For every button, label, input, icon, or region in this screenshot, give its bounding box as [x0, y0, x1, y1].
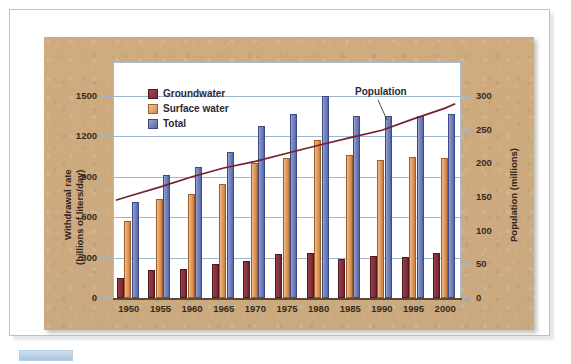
bar-total-1965 — [227, 152, 234, 298]
y2-tick-label-300: 300 — [476, 90, 506, 101]
x-axis-baseline — [113, 298, 462, 300]
y2-tick-150 — [461, 197, 472, 198]
legend-swatch-groundwater-icon — [148, 89, 158, 99]
legend-swatch-total-icon — [148, 119, 158, 129]
legend-label-total: Total — [163, 118, 186, 129]
bar-total-1950 — [132, 202, 139, 298]
bar-surface-water-1990 — [377, 160, 384, 298]
gridline-left-1200 — [113, 136, 461, 137]
y-tick-label-1500: 1500 — [55, 90, 97, 101]
y2-tick-label-150: 150 — [476, 191, 506, 202]
x-tick-label-1970: 1970 — [237, 303, 273, 314]
x-tick-label-1980: 1980 — [301, 303, 337, 314]
legend-swatch-surface-water-icon — [148, 104, 158, 114]
bar-surface-water-1955 — [156, 199, 163, 298]
caption-color-tab — [19, 350, 73, 361]
figure-page: 0300600900120015000501001502002503001950… — [0, 0, 571, 364]
bar-surface-water-1950 — [124, 221, 131, 298]
bar-surface-water-1960 — [188, 194, 195, 298]
y2-tick-100 — [461, 231, 472, 232]
x-tick-label-1960: 1960 — [174, 303, 210, 314]
y-tick-label-1200: 1200 — [55, 130, 97, 141]
y2-tick-300 — [461, 96, 472, 97]
y2-tick-label-100: 100 — [476, 225, 506, 236]
bar-surface-water-1995 — [409, 157, 416, 298]
bar-groundwater-1975 — [275, 254, 282, 298]
legend-label-surface-water: Surface water — [163, 103, 229, 114]
y-tick-600 — [102, 217, 113, 218]
bar-total-1990 — [385, 116, 392, 298]
bar-groundwater-1960 — [180, 269, 187, 298]
bar-surface-water-1970 — [251, 163, 258, 298]
bar-groundwater-1995 — [402, 257, 409, 298]
x-tick-label-1965: 1965 — [206, 303, 242, 314]
x-tick-label-1990: 1990 — [364, 303, 400, 314]
x-tick-label-1975: 1975 — [269, 303, 305, 314]
bar-total-2000 — [448, 114, 455, 298]
y2-tick-label-200: 200 — [476, 157, 506, 168]
y2-tick-label-50: 50 — [476, 258, 506, 269]
x-tick-label-1955: 1955 — [142, 303, 178, 314]
figure-outer-frame: 0300600900120015000501001502002503001950… — [9, 9, 550, 336]
y2-tick-0 — [461, 298, 472, 299]
bar-total-1955 — [163, 175, 170, 298]
x-tick-label-1950: 1950 — [111, 303, 147, 314]
y-tick-0 — [102, 298, 113, 299]
x-tick-label-1985: 1985 — [332, 303, 368, 314]
y-tick-300 — [102, 258, 113, 259]
y-tick-label-0: 0 — [55, 292, 97, 303]
y2-axis-title: Population (millions) — [508, 148, 519, 242]
bar-groundwater-1985 — [338, 259, 345, 298]
bar-surface-water-1975 — [283, 158, 290, 298]
x-tick-label-2000: 2000 — [427, 303, 463, 314]
bar-groundwater-1970 — [243, 261, 250, 298]
bar-groundwater-1990 — [370, 256, 377, 298]
bar-total-1985 — [353, 116, 360, 298]
legend-label-groundwater: Groundwater — [163, 88, 225, 99]
y-tick-1500 — [102, 96, 113, 97]
legend-item-total: Total — [148, 116, 229, 131]
bar-groundwater-2000 — [433, 253, 440, 298]
population-annotation-label: Population — [355, 86, 407, 97]
bar-groundwater-1950 — [117, 278, 124, 298]
bar-total-1960 — [195, 167, 202, 298]
bar-total-1995 — [417, 116, 424, 298]
y-axis-title-line1: Withdrawal rate — [62, 169, 73, 240]
bar-groundwater-1980 — [307, 253, 314, 298]
bar-surface-water-1965 — [219, 184, 226, 298]
bar-total-1975 — [290, 114, 297, 298]
bar-surface-water-1985 — [346, 155, 353, 298]
y2-tick-label-250: 250 — [476, 124, 506, 135]
x-tick-label-1995: 1995 — [396, 303, 432, 314]
y2-tick-250 — [461, 130, 472, 131]
y-tick-900 — [102, 177, 113, 178]
bar-surface-water-2000 — [441, 158, 448, 298]
legend-item-surface-water: Surface water — [148, 101, 229, 116]
bar-groundwater-1955 — [148, 270, 155, 298]
bar-surface-water-1980 — [314, 140, 321, 298]
y-tick-1200 — [102, 136, 113, 137]
bar-total-1970 — [258, 126, 265, 298]
y2-tick-label-0: 0 — [476, 292, 506, 303]
bar-groundwater-1965 — [212, 264, 219, 298]
y2-tick-50 — [461, 264, 472, 265]
legend-item-groundwater: Groundwater — [148, 86, 229, 101]
y2-tick-200 — [461, 163, 472, 164]
bar-total-1980 — [322, 96, 329, 298]
chart-legend: Groundwater Surface water Total — [148, 86, 229, 131]
y-axis-title-line2: (billions of liters/day) — [74, 169, 85, 265]
